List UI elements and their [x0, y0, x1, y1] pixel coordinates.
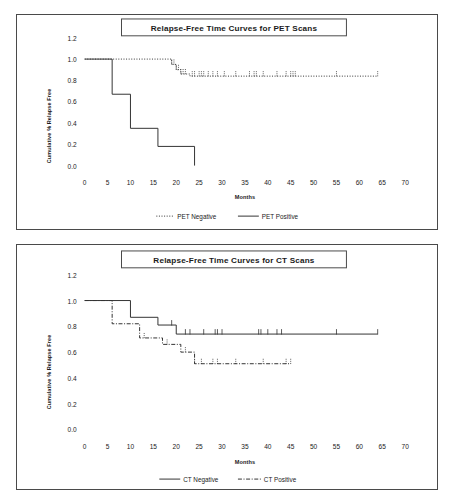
pet-xtick-13: 65: [379, 179, 387, 186]
ct-ytick-2: 0.4: [68, 375, 77, 382]
chart-panel-ct: Relapse-Free Time Curves for CT Scans Cu…: [16, 244, 438, 490]
pet-xtick-3: 15: [150, 179, 158, 186]
ct-ytick-0: 0.0: [68, 426, 77, 433]
ct-xtick-5: 25: [195, 443, 203, 450]
ct-xtick-4: 20: [173, 443, 181, 450]
ct-xtick-10: 50: [310, 443, 318, 450]
ct-x-axis-label: Months: [235, 459, 255, 465]
pet-y-axis-label: Cumulative % Relapse Free: [46, 89, 52, 164]
pet-ytick-5: 1.0: [68, 56, 77, 63]
ct-xtick-2: 10: [127, 443, 135, 450]
ct-legend-label-positive: CT Positive: [264, 476, 297, 483]
step-line: [85, 301, 291, 364]
step-line: [85, 59, 378, 76]
pet-plot-area: [85, 59, 378, 166]
pet-legend: PET Negative PET Positive: [156, 213, 298, 221]
pet-ytick-3: 0.6: [68, 98, 77, 105]
ct-xtick-6: 30: [218, 443, 226, 450]
ct-xtick-3: 15: [150, 443, 158, 450]
pet-x-axis-label: Months: [235, 194, 255, 200]
ct-y-axis-label: Cumulative % Relapse Free: [46, 335, 52, 410]
pet-xtick-5: 25: [195, 179, 203, 186]
ct-plot-area: [85, 301, 378, 365]
pet-legend-label-positive: PET Positive: [262, 213, 299, 220]
ct-xtick-9: 45: [287, 443, 295, 450]
series-ct-negative: [85, 301, 378, 335]
pet-xtick-11: 55: [333, 179, 341, 186]
pet-xtick-9: 45: [287, 179, 295, 186]
ct-ytick-4: 0.8: [68, 323, 77, 330]
ct-ytick-3: 0.6: [68, 349, 77, 356]
pet-xtick-2: 10: [127, 179, 135, 186]
pet-xtick-0: 0: [83, 179, 87, 186]
pet-xtick-6: 30: [218, 179, 226, 186]
pet-xtick-8: 40: [264, 179, 272, 186]
ct-y-ticks: 0.0 0.2 0.4 0.6 0.8 1.0 1.2: [68, 272, 77, 434]
pet-xtick-12: 60: [356, 179, 364, 186]
pet-ytick-6: 1.2: [68, 35, 77, 42]
ct-xtick-7: 35: [241, 443, 249, 450]
ct-xtick-8: 40: [264, 443, 272, 450]
pet-chart-title: Relapse-Free Time Curves for PET Scans: [151, 24, 318, 33]
ct-xtick-0: 0: [83, 443, 87, 450]
ct-chart-title: Relapse-Free Time Curves for CT Scans: [153, 256, 314, 265]
chart-panel-pet: Relapse-Free Time Curves for PET Scans C…: [16, 14, 438, 230]
pet-xtick-4: 20: [173, 179, 181, 186]
pet-ytick-4: 0.8: [68, 77, 77, 84]
ct-legend-label-negative: CT Negative: [183, 476, 219, 484]
ct-chart-svg: Relapse-Free Time Curves for CT Scans Cu…: [17, 245, 437, 489]
pet-ytick-2: 0.4: [68, 120, 77, 127]
series-pet-positive: [85, 59, 195, 166]
pet-x-ticks: 0 5 10 15 20 25 30 35 40 45 50 55 60 65 …: [83, 179, 409, 186]
pet-legend-label-negative: PET Negative: [177, 213, 217, 221]
ct-xtick-1: 5: [106, 443, 110, 450]
pet-ytick-1: 0.2: [68, 141, 77, 148]
ct-ytick-1: 0.2: [68, 401, 77, 408]
ct-xtick-13: 65: [379, 443, 387, 450]
pet-title-box: Relapse-Free Time Curves for PET Scans: [122, 19, 347, 36]
pet-xtick-10: 50: [310, 179, 318, 186]
figure-page: Relapse-Free Time Curves for PET Scans C…: [0, 0, 455, 504]
ct-ytick-6: 1.2: [68, 272, 77, 279]
pet-y-ticks: 0.0 0.2 0.4 0.6 0.8 1.0 1.2: [68, 35, 77, 170]
pet-ytick-0: 0.0: [68, 163, 77, 170]
pet-xtick-7: 35: [241, 179, 249, 186]
ct-legend: CT Negative CT Positive: [159, 476, 296, 484]
pet-chart-svg: Relapse-Free Time Curves for PET Scans C…: [17, 15, 437, 229]
step-line: [85, 301, 378, 335]
ct-xtick-11: 55: [333, 443, 341, 450]
series-ct-positive: [85, 301, 291, 365]
ct-ytick-5: 1.0: [68, 298, 77, 305]
ct-xtick-14: 70: [401, 443, 409, 450]
pet-xtick-14: 70: [401, 179, 409, 186]
ct-x-ticks: 0 5 10 15 20 25 30 35 40 45 50 55 60 65 …: [83, 443, 409, 450]
step-line: [85, 59, 195, 166]
pet-xtick-1: 5: [106, 179, 110, 186]
ct-title-box: Relapse-Free Time Curves for CT Scans: [122, 251, 347, 268]
ct-xtick-12: 60: [356, 443, 364, 450]
series-pet-negative: [85, 59, 378, 77]
